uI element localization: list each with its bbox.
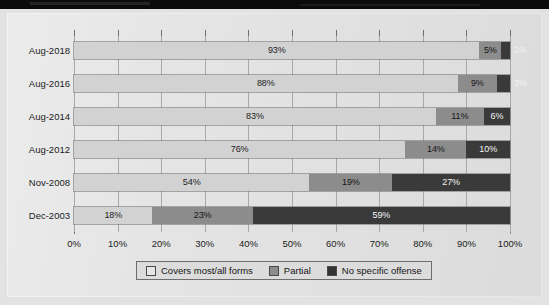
stacked-bar[interactable]: 88%9%3%: [74, 75, 510, 92]
x-axis-tick-label: 50%: [282, 238, 301, 249]
bar-segment[interactable]: 3%: [497, 75, 510, 92]
bar-value-label: 6%: [491, 112, 504, 121]
bar-value-label: 93%: [268, 46, 286, 55]
y-axis-label: Dec-2003: [29, 207, 70, 224]
bar-row: 88%9%3%: [74, 75, 510, 92]
bar-value-label: 27%: [442, 178, 460, 187]
bar-value-label: 9%: [471, 79, 484, 88]
bar-value-label: 54%: [183, 178, 201, 187]
bar-row: 76%14%10%: [74, 141, 510, 158]
legend-label: Partial: [284, 265, 311, 276]
x-axis-tick: [248, 30, 249, 36]
bar-segment[interactable]: 18%: [74, 207, 152, 224]
legend-swatch-icon: [146, 266, 156, 276]
x-axis-tick-label: 0%: [67, 238, 81, 249]
bar-value-label: 11%: [451, 112, 468, 121]
bar-segment[interactable]: 10%: [466, 141, 510, 158]
plot-area: 93%5%2%88%9%3%83%11%6%76%14%10%54%19%27%…: [74, 34, 510, 232]
y-axis-label: Aug-2014: [29, 108, 70, 125]
bar-segment[interactable]: 6%: [484, 108, 510, 125]
legend-label: No specific offense: [342, 265, 422, 276]
x-axis-tick: [205, 30, 206, 36]
y-axis-label: Aug-2012: [29, 141, 70, 158]
bar-segment[interactable]: 9%: [458, 75, 497, 92]
stacked-bar[interactable]: 83%11%6%: [74, 108, 510, 125]
x-axis-tick: [74, 30, 75, 36]
bar-segment[interactable]: 11%: [436, 108, 484, 125]
bar-value-label: 23%: [194, 211, 212, 220]
x-axis-tick: [292, 30, 293, 36]
legend-item[interactable]: No specific offense: [327, 265, 422, 276]
x-axis-tick-label: 60%: [326, 238, 345, 249]
bar-value-label: 83%: [246, 112, 264, 121]
bar-segment[interactable]: 2%: [501, 42, 510, 59]
x-gridline: [292, 34, 293, 232]
bar-value-label: 2%: [514, 46, 527, 55]
bar-row: 83%11%6%: [74, 108, 510, 125]
y-axis-label: Nov-2008: [29, 174, 70, 191]
bar-value-label: 5%: [484, 46, 497, 55]
x-axis-tick-label: 40%: [239, 238, 258, 249]
bar-value-label: 19%: [342, 178, 360, 187]
x-gridline: [423, 34, 424, 232]
bar-segment[interactable]: 23%: [152, 207, 252, 224]
x-axis-tick-label: 10%: [108, 238, 127, 249]
x-axis-tick-label: 30%: [195, 238, 214, 249]
bar-segment[interactable]: 88%: [74, 75, 458, 92]
bar-row: 54%19%27%: [74, 174, 510, 191]
bar-segment[interactable]: 83%: [74, 108, 436, 125]
bar-segment[interactable]: 5%: [479, 42, 501, 59]
stacked-bar[interactable]: 18%23%59%: [74, 207, 510, 224]
legend-item[interactable]: Covers most/all forms: [146, 265, 253, 276]
bar-segment[interactable]: 93%: [74, 42, 479, 59]
bar-row: 18%23%59%: [74, 207, 510, 224]
bar-segment[interactable]: 54%: [74, 174, 309, 191]
x-gridline: [379, 34, 380, 232]
x-axis-tick: [466, 30, 467, 36]
x-axis-tick: [161, 30, 162, 36]
x-gridline: [74, 34, 75, 232]
x-axis-tick: [423, 30, 424, 36]
legend-swatch-icon: [327, 266, 337, 276]
bar-segment[interactable]: 14%: [405, 141, 466, 158]
bar-value-label: 10%: [479, 145, 497, 154]
legend-swatch-icon: [269, 266, 279, 276]
bar-value-label: 14%: [427, 145, 445, 154]
x-axis-tick-label: 70%: [370, 238, 389, 249]
x-gridline: [118, 34, 119, 232]
bar-row: 93%5%2%: [74, 42, 510, 59]
legend-label: Covers most/all forms: [161, 265, 253, 276]
stacked-bar[interactable]: 93%5%2%: [74, 42, 510, 59]
x-axis-tick-label: 20%: [152, 238, 171, 249]
y-axis-category-labels: Aug-2018Aug-2016Aug-2014Aug-2012Nov-2008…: [0, 34, 70, 232]
x-gridline: [510, 34, 511, 232]
bar-value-label: 3%: [514, 79, 527, 88]
x-gridline: [248, 34, 249, 232]
y-axis-label: Aug-2018: [29, 42, 70, 59]
stacked-bar[interactable]: 76%14%10%: [74, 141, 510, 158]
bar-segment[interactable]: 27%: [392, 174, 510, 191]
stacked-bar[interactable]: 54%19%27%: [74, 174, 510, 191]
x-axis-tick-label: 100%: [498, 238, 522, 249]
bar-segment[interactable]: 59%: [253, 207, 510, 224]
x-gridline: [466, 34, 467, 232]
bar-value-label: 18%: [104, 211, 122, 220]
x-gridline: [336, 34, 337, 232]
bar-value-label: 88%: [257, 79, 275, 88]
y-axis-label: Aug-2016: [29, 75, 70, 92]
bar-segment[interactable]: 19%: [309, 174, 392, 191]
x-gridline: [205, 34, 206, 232]
legend-item[interactable]: Partial: [269, 265, 311, 276]
x-axis-tick: [510, 30, 511, 36]
chart-legend: Covers most/all formsPartialNo specific …: [136, 261, 432, 280]
bar-value-label: 76%: [231, 145, 249, 154]
scanned-page: Aug-2018Aug-2016Aug-2014Aug-2012Nov-2008…: [0, 0, 549, 305]
bar-value-label: 59%: [372, 211, 390, 220]
x-axis-tick-label: 80%: [413, 238, 432, 249]
x-gridline: [161, 34, 162, 232]
bar-segment[interactable]: 76%: [74, 141, 405, 158]
stacked-bar-chart: Aug-2018Aug-2016Aug-2014Aug-2012Nov-2008…: [0, 0, 549, 305]
x-axis-tick: [336, 30, 337, 36]
x-axis-tick: [118, 30, 119, 36]
x-axis-tick: [379, 30, 380, 36]
